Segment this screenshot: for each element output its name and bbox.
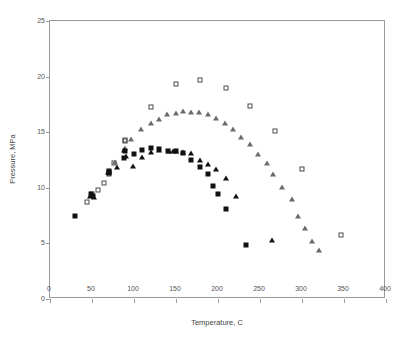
x-tick — [176, 299, 177, 303]
data-point-open-square — [339, 232, 344, 237]
data-point-open-triangle — [148, 121, 154, 126]
data-point-filled-triangle — [197, 158, 203, 163]
y-axis-title: Pressure, MPa — [8, 134, 17, 184]
y-tick-label: 20 — [37, 72, 45, 79]
data-point-filled-square — [216, 192, 221, 197]
data-point-open-triangle — [247, 142, 253, 147]
data-point-filled-triangle — [173, 149, 179, 154]
data-point-open-triangle — [213, 115, 219, 120]
data-point-filled-triangle — [105, 170, 111, 175]
data-point-open-triangle — [230, 126, 236, 131]
data-point-filled-triangle — [121, 147, 127, 152]
data-point-open-square — [148, 104, 153, 109]
x-tick — [344, 299, 345, 303]
y-tick — [46, 188, 50, 189]
y-tick — [46, 21, 50, 22]
data-point-filled-square — [205, 172, 210, 177]
data-point-open-triangle — [270, 172, 276, 177]
data-point-open-triangle — [222, 121, 228, 126]
data-point-filled-square — [73, 213, 78, 218]
data-point-open-triangle — [188, 110, 194, 115]
data-point-open-square — [95, 188, 100, 193]
data-point-open-square — [273, 129, 278, 134]
y-tick — [46, 299, 50, 300]
data-point-open-triangle — [264, 161, 270, 166]
data-point-open-square — [101, 181, 106, 186]
data-point-filled-square — [243, 242, 248, 247]
data-point-open-triangle — [279, 184, 285, 189]
y-tick-label: 5 — [41, 239, 45, 246]
x-tick — [386, 299, 387, 303]
data-point-open-triangle — [309, 239, 315, 244]
data-point-open-square — [247, 103, 252, 108]
data-point-open-square — [122, 139, 127, 144]
data-point-filled-square — [132, 152, 137, 157]
data-point-open-triangle — [255, 152, 261, 157]
x-tick-label: 50 — [87, 285, 95, 292]
data-point-open-square — [174, 82, 179, 87]
data-point-filled-triangle — [156, 147, 162, 152]
data-point-open-triangle — [205, 112, 211, 117]
data-point-filled-triangle — [139, 154, 145, 159]
data-point-filled-square — [140, 147, 145, 152]
data-point-filled-triangle — [114, 164, 120, 169]
data-point-open-square — [197, 77, 202, 82]
data-point-open-triangle — [239, 134, 245, 139]
x-tick-label: 300 — [295, 285, 307, 292]
x-tick-label: 150 — [169, 285, 181, 292]
x-tick-label: 350 — [337, 285, 349, 292]
y-tick-label: 25 — [37, 17, 45, 24]
data-point-open-square — [223, 85, 228, 90]
y-tick-label: 15 — [37, 128, 45, 135]
y-tick — [46, 77, 50, 78]
chart-figure: 0501001502002503003504000510152025 Tempe… — [0, 0, 403, 343]
data-point-filled-square — [189, 158, 194, 163]
x-tick-label: 200 — [211, 285, 223, 292]
data-point-open-triangle — [289, 196, 295, 201]
data-point-filled-triangle — [188, 151, 194, 156]
data-point-filled-square — [197, 164, 202, 169]
x-tick — [134, 299, 135, 303]
data-point-open-triangle — [165, 112, 171, 117]
data-point-filled-triangle — [269, 238, 275, 243]
data-point-open-triangle — [296, 213, 302, 218]
y-tick-label: 10 — [37, 183, 45, 190]
data-point-open-triangle — [156, 116, 162, 121]
data-point-open-triangle — [128, 136, 134, 141]
x-axis-title: Temperature, C — [49, 318, 385, 327]
plot-area — [49, 20, 385, 298]
data-point-open-square — [300, 166, 305, 171]
data-point-open-square — [84, 200, 89, 205]
data-point-filled-triangle — [205, 162, 211, 167]
data-point-filled-triangle — [233, 193, 239, 198]
data-point-filled-triangle — [91, 194, 97, 199]
x-tick-label: 0 — [47, 285, 51, 292]
data-point-open-triangle — [317, 248, 323, 253]
x-tick-label: 400 — [379, 285, 391, 292]
data-point-filled-triangle — [130, 163, 136, 168]
y-tick — [46, 132, 50, 133]
x-tick-label: 100 — [127, 285, 139, 292]
data-point-filled-square — [210, 183, 215, 188]
data-point-filled-triangle — [223, 175, 229, 180]
data-point-filled-triangle — [148, 150, 154, 155]
data-point-open-triangle — [197, 110, 203, 115]
y-tick-label: 0 — [41, 295, 45, 302]
data-point-filled-triangle — [123, 153, 129, 158]
x-tick — [92, 299, 93, 303]
y-tick — [46, 243, 50, 244]
data-point-open-triangle — [138, 126, 144, 131]
data-point-open-triangle — [180, 109, 186, 114]
data-point-open-triangle — [302, 225, 308, 230]
x-tick — [218, 299, 219, 303]
data-point-filled-triangle — [213, 166, 219, 171]
data-point-filled-square — [224, 206, 229, 211]
x-tick — [260, 299, 261, 303]
data-point-open-triangle — [173, 111, 179, 116]
x-tick — [50, 299, 51, 303]
data-point-filled-triangle — [180, 150, 186, 155]
data-points-layer — [50, 21, 384, 297]
x-tick-label: 250 — [253, 285, 265, 292]
x-tick — [302, 299, 303, 303]
